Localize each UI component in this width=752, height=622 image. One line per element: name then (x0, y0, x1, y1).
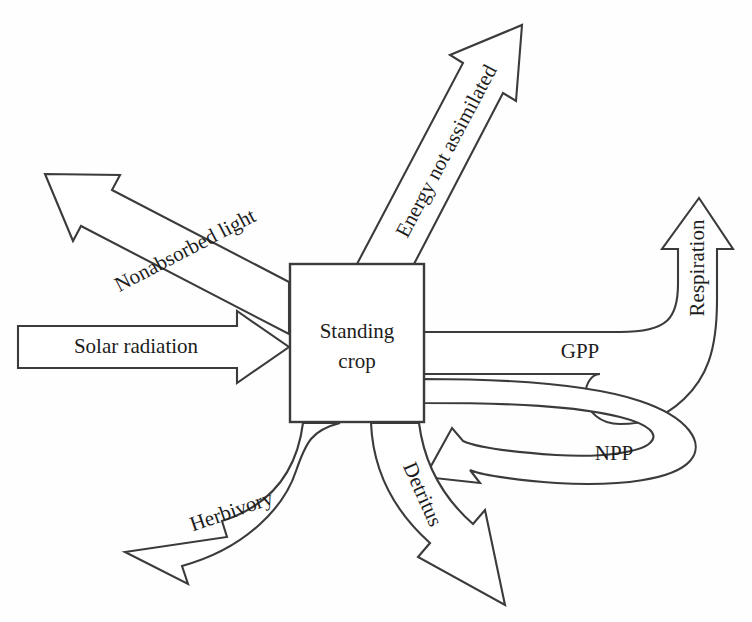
npp-label: NPP (595, 441, 634, 465)
standing-crop-node: Standing crop (290, 264, 424, 422)
solar-radiation-label: Solar radiation (74, 334, 199, 358)
flow-solar-radiation: Solar radiation (18, 311, 289, 383)
flow-herbivory: Herbivory (125, 423, 340, 584)
gpp-label: GPP (561, 339, 600, 363)
standing-crop-label-line2: crop (338, 349, 375, 373)
energy-not-assimilated-label: Energy not assimilated (390, 60, 502, 241)
respiration-label: Respiration (685, 219, 709, 316)
flow-nonabsorbed-light: Nonabsorbed light (45, 174, 289, 334)
energy-flow-diagram: Solar radiation Nonabsorbed light Energy… (0, 0, 752, 622)
flow-energy-not-assimilated: Energy not assimilated (357, 25, 522, 264)
diagram-canvas: Solar radiation Nonabsorbed light Energy… (0, 0, 752, 622)
standing-crop-label-line1: Standing (320, 319, 395, 343)
standing-crop-box (290, 264, 424, 422)
